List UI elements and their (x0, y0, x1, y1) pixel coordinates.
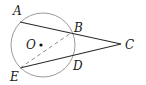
label-o: O (26, 38, 36, 52)
label-b: B (73, 21, 83, 35)
geometry-diagram: A B C D E O (0, 0, 146, 85)
label-a: A (12, 4, 22, 18)
label-d: D (72, 59, 83, 73)
label-e: E (9, 70, 19, 84)
label-c: C (125, 38, 134, 52)
center-dot (39, 43, 42, 46)
